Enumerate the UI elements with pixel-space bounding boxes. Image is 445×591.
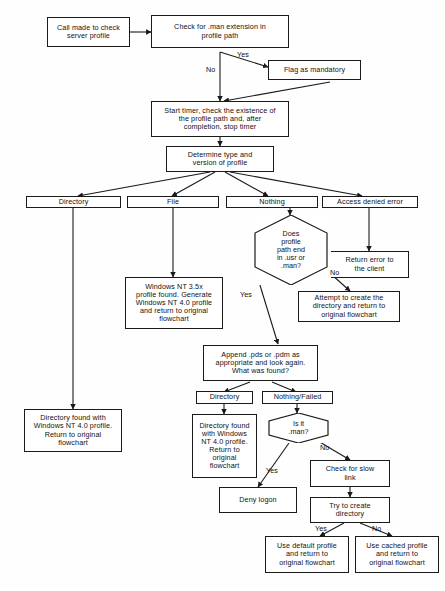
edge-label-is-man-no-text: No (320, 443, 329, 452)
decision-is-it-man[interactable]: Is it .man? (262, 413, 335, 443)
edge-label-create-yes: Yes (315, 524, 327, 533)
edge-label-is-man-yes: Yes (266, 466, 278, 475)
edge-label-path-end-yes: Yes (240, 290, 252, 299)
edge-label-create-no-text: No (372, 524, 381, 533)
edge-determine-directory (78, 172, 210, 196)
node-use-cached-profile[interactable]: Use cached profile and return to origina… (355, 536, 439, 573)
node-flag-as-mandatory[interactable]: Flag as mandatory (268, 60, 361, 80)
edge-label-create-yes-text: Yes (315, 524, 327, 533)
node-deny-logon-label: Deny logon (222, 496, 294, 504)
node-found-nothing-failed[interactable]: Nothing/Failed (262, 391, 333, 404)
node-nt35-profile-found[interactable]: Windows NT 3.5x profile found. Generate … (125, 277, 223, 329)
node-check-slow-link[interactable]: Check for slow link (310, 460, 390, 487)
edge-label-path-end-no-text: No (330, 268, 339, 277)
edge-determine-nothing (225, 172, 268, 196)
node-directory-found-nt40[interactable]: Directory found with Windows NT 4.0 prof… (24, 409, 122, 452)
node-attempt-create-directory[interactable]: Attempt to create the directory and retu… (298, 291, 400, 322)
edge-determine-file (172, 172, 215, 196)
edge-label-is-man-yes-text: Yes (266, 466, 278, 475)
edge-label-man-no: No (206, 65, 215, 74)
node-directory-found-nt40-label: Directory found with Windows NT 4.0 prof… (27, 414, 119, 446)
node-return-error[interactable]: Return error to the client (330, 251, 409, 278)
node-use-default-profile-label: Use default profile and return to origin… (268, 542, 346, 566)
edge-hex-yes-append (259, 282, 278, 344)
decision-path-ends-usr-man-label: Does profile path end in .usr or .man? (257, 230, 324, 270)
edge-label-is-man-no: No (320, 443, 329, 452)
node-append-pds-pdm-label: Append .pds or .pdm as appropriate and l… (206, 351, 315, 375)
node-try-create-directory-label: Try to create directory (313, 502, 387, 518)
node-call-made-label: Call made to check server profile (50, 24, 127, 40)
edge-label-path-end-yes-text: Yes (240, 290, 252, 299)
node-found-directory-label: Directory (199, 393, 250, 401)
node-attempt-create-directory-label: Attempt to create the directory and retu… (301, 294, 397, 318)
node-determine-type-label: Determine type and version of profile (169, 151, 271, 167)
node-use-default-profile[interactable]: Use default profile and return to origin… (265, 536, 349, 573)
node-check-man-extension-label: Check for .man extension in profile path (154, 23, 286, 39)
node-result-nothing[interactable]: Nothing (226, 196, 318, 208)
node-return-error-label: Return error to the client (333, 256, 406, 272)
decision-is-it-man-label: Is it .man? (268, 420, 329, 436)
node-try-create-directory[interactable]: Try to create directory (310, 497, 390, 523)
node-result-access-denied[interactable]: Access denied error (322, 196, 418, 208)
node-result-directory[interactable]: Directory (26, 196, 121, 208)
node-start-timer-label: Start timer, check the existence of the … (154, 107, 286, 131)
node-result-directory-label: Directory (29, 198, 118, 206)
node-determine-type[interactable]: Determine type and version of profile (166, 146, 274, 172)
node-nt35-profile-found-label: Windows NT 3.5x profile found. Generate … (128, 283, 220, 323)
node-directory-found-nt40-b-label: Directory found with Windows NT 4.0 prof… (195, 422, 254, 470)
node-call-made[interactable]: Call made to check server profile (47, 17, 130, 47)
node-use-cached-profile-label: Use cached profile and return to origina… (358, 542, 436, 566)
edge-label-man-no-text: No (206, 65, 215, 74)
node-result-access-denied-label: Access denied error (325, 198, 415, 206)
edge-determine-access-denied (230, 172, 362, 196)
edge-label-man-yes: Yes (237, 50, 249, 59)
node-append-pds-pdm[interactable]: Append .pds or .pdm as appropriate and l… (203, 345, 318, 381)
flowchart-canvas: Call made to check server profile Check … (0, 0, 445, 591)
edge-label-create-no: No (372, 524, 381, 533)
node-directory-found-nt40-b[interactable]: Directory found with Windows NT 4.0 prof… (192, 414, 257, 478)
node-flag-as-mandatory-label: Flag as mandatory (271, 66, 358, 74)
decision-path-ends-usr-man[interactable]: Does profile path end in .usr or .man? (251, 215, 331, 285)
node-start-timer[interactable]: Start timer, check the existence of the … (151, 101, 289, 137)
node-check-man-extension[interactable]: Check for .man extension in profile path (151, 15, 289, 48)
edge-label-man-yes-text: Yes (237, 50, 249, 59)
node-found-nothing-failed-label: Nothing/Failed (265, 393, 330, 401)
node-result-nothing-label: Nothing (229, 198, 315, 206)
node-check-slow-link-label: Check for slow link (313, 465, 387, 481)
edge-isman-yes-deny (258, 443, 289, 487)
node-deny-logon[interactable]: Deny logon (219, 487, 297, 513)
node-result-file-label: File (130, 198, 216, 206)
edge-flag-to-timer (224, 82, 330, 101)
edge-label-path-end-no: No (330, 268, 339, 277)
node-result-file[interactable]: File (127, 196, 219, 208)
node-found-directory[interactable]: Directory (196, 391, 253, 404)
